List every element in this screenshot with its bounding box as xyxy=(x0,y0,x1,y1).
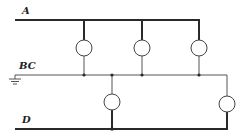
junction-dot xyxy=(82,73,85,76)
ground-icon xyxy=(9,75,21,84)
junction-dot xyxy=(110,73,113,76)
line-bc xyxy=(15,56,227,96)
label-line-d: D xyxy=(21,114,31,125)
lamp-icon-2 xyxy=(134,40,150,56)
circuit-diagram: A BC D xyxy=(0,0,242,138)
label-line-bc: BC xyxy=(18,60,36,71)
junction-dot xyxy=(197,73,200,76)
junction-dot xyxy=(140,73,143,76)
lamp-icon-5 xyxy=(219,96,235,112)
junction-dot xyxy=(110,127,114,131)
label-line-a: A xyxy=(21,5,30,16)
line-d xyxy=(15,110,228,131)
lamp-icon-4 xyxy=(104,94,120,110)
lamp-icon-3 xyxy=(191,40,207,56)
line-a xyxy=(15,20,200,40)
lamp-icon-1 xyxy=(76,40,92,56)
